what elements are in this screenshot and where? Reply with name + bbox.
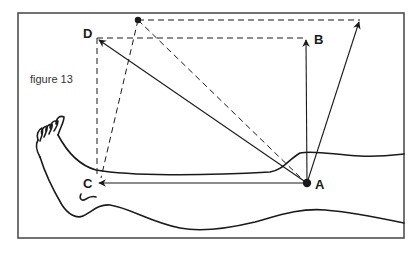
dashed-E-A: [138, 20, 303, 180]
label-B: B: [314, 32, 323, 47]
label-D: D: [83, 26, 92, 41]
figure-13-diagram: A B C D figure 13: [0, 0, 419, 255]
foot-sole: [36, 140, 40, 157]
label-A: A: [315, 177, 325, 192]
point-A-dot: [303, 179, 311, 187]
point-E-dot: [135, 17, 141, 23]
ankle-mark: [80, 194, 96, 200]
vector-A-B: [306, 40, 307, 183]
leg-lower-outline: [40, 157, 404, 230]
vector-A-D: [99, 40, 307, 183]
label-C: C: [83, 176, 93, 191]
leg-illustration: [36, 116, 404, 229]
figure-caption: figure 13: [30, 73, 73, 85]
figure-frame: [18, 13, 404, 238]
dashed-E-C: [101, 20, 138, 178]
